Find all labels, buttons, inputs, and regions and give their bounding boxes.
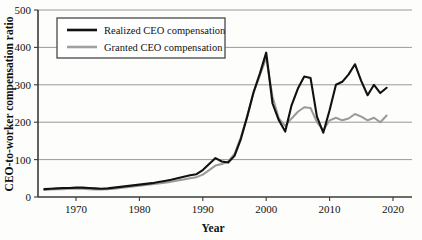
y-tick-label: 300 — [15, 79, 32, 91]
x-tick-label: 1970 — [65, 203, 88, 215]
y-axis-title: CEO-to-worker compensation ratio — [3, 16, 16, 191]
y-tick-label: 200 — [15, 116, 32, 128]
x-tick-label: 2010 — [319, 203, 342, 215]
y-tick-label: 400 — [15, 41, 32, 53]
y-tick-labels-group: 5004003002001000 — [15, 4, 32, 203]
x-tick-label: 1980 — [128, 203, 151, 215]
y-tick-label: 500 — [15, 4, 32, 16]
legend-label-realized: Realized CEO compensation — [104, 25, 226, 36]
x-axis-title: Year — [202, 222, 225, 234]
series-line-granted — [44, 58, 386, 190]
y-tick-label: 100 — [15, 154, 32, 166]
series-line-realized — [44, 53, 386, 190]
legend-label-granted: Granted CEO compensation — [104, 42, 223, 53]
series-group — [44, 53, 386, 190]
x-tick-label: 1990 — [192, 203, 215, 215]
y-tick-label: 0 — [26, 191, 32, 203]
x-tick-label: 2020 — [382, 203, 405, 215]
x-tick-label: 2000 — [255, 203, 278, 215]
chart-container: 5004003002001000 19701980199020002010202… — [0, 0, 422, 240]
chart-legend: Realized CEO compensation Granted CEO co… — [57, 18, 226, 58]
line-chart: 5004003002001000 19701980199020002010202… — [0, 0, 422, 240]
x-tick-labels-group: 197019801990200020102020 — [65, 203, 404, 215]
